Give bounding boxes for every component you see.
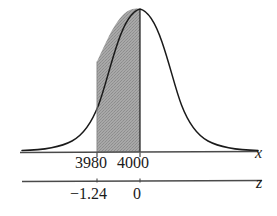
x-axis-label-4000: 4000 [117, 155, 149, 171]
z-axis-line [22, 181, 262, 182]
z-axis-name: z [256, 175, 262, 191]
shaded-area [97, 9, 140, 152]
z-axis-label-minus-1-24: −1.24 [70, 186, 107, 202]
z-axis-label-zero: 0 [133, 186, 141, 202]
normal-distribution-figure: 3980 4000 −1.24 0 x z [0, 0, 277, 216]
distribution-plot [0, 0, 277, 216]
x-axis-label-3980: 3980 [75, 155, 107, 171]
x-axis-name: x [255, 145, 262, 161]
x-axis-line [20, 152, 258, 153]
